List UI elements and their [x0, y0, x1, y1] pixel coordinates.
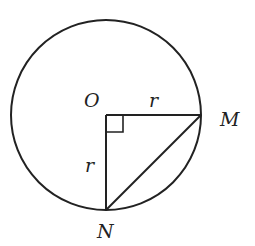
label-o: O	[84, 89, 100, 111]
chord-mn	[106, 115, 201, 210]
right-angle-marker	[106, 115, 123, 132]
label-r-horizontal: r	[149, 89, 160, 111]
circle-diagram: O r M r N	[0, 0, 255, 246]
label-r-vertical: r	[85, 154, 96, 176]
label-m: M	[219, 108, 240, 130]
label-n: N	[96, 220, 115, 242]
